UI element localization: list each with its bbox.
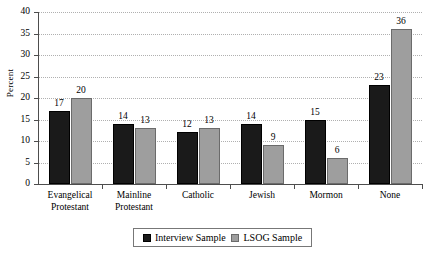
gray-square-swatch-icon xyxy=(231,234,239,242)
chart-legend: Interview Sample LSOG Sample xyxy=(133,228,312,247)
bar-value-label: 15 xyxy=(299,108,332,118)
bar xyxy=(49,111,70,184)
bar-value-label: 14 xyxy=(235,112,268,122)
bar-value-label: 13 xyxy=(193,116,226,126)
x-axis-tick-mark xyxy=(230,185,231,189)
bar-value-label: 9 xyxy=(257,133,290,143)
y-axis-tick-label: 0 xyxy=(0,179,30,189)
x-axis-category-label: Mainline Protestant xyxy=(102,190,166,213)
bar-value-label: 13 xyxy=(129,116,162,126)
bars-layer xyxy=(38,12,422,184)
bar xyxy=(369,85,390,184)
bar xyxy=(263,145,284,184)
bar-chart: Percent 0510152025303540 172014131213149… xyxy=(0,0,430,256)
x-axis-tick-mark xyxy=(102,185,103,189)
y-axis-tick-label: 20 xyxy=(0,93,30,103)
x-axis-category-label: Jewish xyxy=(230,190,294,202)
bar xyxy=(113,124,134,184)
y-axis-tick-label: 10 xyxy=(0,136,30,146)
legend-item-interview-sample: Interview Sample xyxy=(143,233,226,243)
legend-item-label: LSOG Sample xyxy=(243,233,302,243)
bar-value-label: 17 xyxy=(43,99,76,109)
bar xyxy=(135,128,156,184)
x-axis-category-label: Evangelical Protestant xyxy=(38,190,102,213)
legend-item-label: Interview Sample xyxy=(155,233,226,243)
y-axis-tick-label: 30 xyxy=(0,50,30,60)
y-axis-tick-label: 35 xyxy=(0,29,30,39)
bar xyxy=(199,128,220,184)
y-axis-tick-label: 15 xyxy=(0,115,30,125)
bar-value-label: 23 xyxy=(363,73,396,83)
x-axis-category-label: Mormon xyxy=(294,190,358,202)
x-axis-tick-mark xyxy=(166,185,167,189)
black-square-swatch-icon xyxy=(143,234,151,242)
x-axis-category-label: None xyxy=(358,190,422,202)
bar xyxy=(391,29,412,184)
x-axis-tick-mark xyxy=(422,185,423,189)
x-axis-tick-mark xyxy=(358,185,359,189)
legend-item-lsog-sample: LSOG Sample xyxy=(231,233,302,243)
y-axis-tick-label: 25 xyxy=(0,72,30,82)
bar-value-label: 20 xyxy=(65,86,98,96)
y-axis-tick-label: 5 xyxy=(0,158,30,168)
x-axis-tick-mark xyxy=(294,185,295,189)
bar xyxy=(177,132,198,184)
bar xyxy=(71,98,92,184)
bar xyxy=(327,158,348,184)
bar-value-label: 6 xyxy=(321,146,354,156)
x-axis-category-label: Catholic xyxy=(166,190,230,202)
y-axis-title: Percent xyxy=(5,51,15,115)
y-axis-tick-label: 40 xyxy=(0,7,30,17)
bar-value-label: 36 xyxy=(385,17,418,27)
